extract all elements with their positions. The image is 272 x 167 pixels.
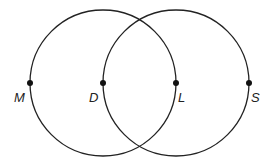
label-d: D — [89, 90, 98, 105]
label-m: M — [14, 90, 25, 105]
label-l: L — [178, 90, 185, 105]
point-m — [27, 80, 33, 86]
label-s: S — [251, 90, 260, 105]
point-s — [246, 80, 252, 86]
two-circles-diagram: M D L S — [0, 0, 272, 167]
point-d — [100, 80, 106, 86]
point-l — [173, 80, 179, 86]
